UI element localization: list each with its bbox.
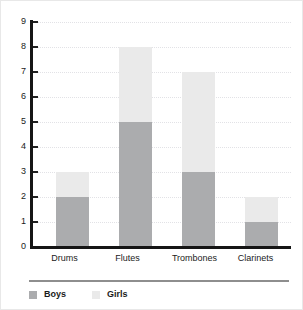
y-tick-mark-1 [33,221,38,223]
x-tick-label-clarinets: Clarinets [226,253,285,263]
gridline-8 [32,47,291,49]
stacked-bar-chart: 9 8 7 6 5 4 3 2 1 0 Drums Flutes Trombon… [0,0,303,310]
y-tick-label-1: 1 [1,217,26,226]
x-tick-label-flutes: Flutes [102,253,153,263]
y-tick-mark-6 [33,96,38,98]
bar-stack-clarinets[interactable] [245,197,278,247]
y-tick-label-6: 6 [1,92,26,101]
y-tick-mark-9 [33,21,38,23]
gridline-4 [32,147,291,149]
y-tick-label-0: 0 [1,242,26,251]
y-tick-label-3: 3 [1,167,26,176]
gridline-5 [32,122,291,124]
y-tick-label-9: 9 [1,17,26,26]
bar-segment-girls-clarinets[interactable] [245,197,278,222]
y-tick-mark-3 [33,171,38,173]
y-tick-mark-2 [33,196,38,198]
gridline-6 [32,97,291,99]
y-tick-label-8: 8 [1,42,26,51]
legend-divider [29,280,289,282]
bar-segment-girls-drums[interactable] [56,172,89,197]
x-tick-label-trombones: Trombones [161,253,228,263]
legend-swatch-boys-icon [29,291,37,299]
bar-stack-trombones[interactable] [182,72,215,247]
legend-entry-boys[interactable]: Boys [29,290,66,299]
y-axis [30,20,33,249]
bar-segment-girls-flutes[interactable] [119,47,152,122]
y-tick-mark-7 [33,71,38,73]
legend: Boys Girls [29,290,154,299]
bar-segment-boys-clarinets[interactable] [245,222,278,247]
gridline-7 [32,72,291,74]
y-tick-label-5: 5 [1,117,26,126]
bar-segment-boys-trombones[interactable] [182,172,215,247]
y-tick-mark-4 [33,146,38,148]
legend-label-boys: Boys [44,290,66,299]
x-axis [30,246,291,249]
bar-stack-drums[interactable] [56,172,89,247]
gridline-9 [32,22,291,24]
bar-stack-flutes[interactable] [119,47,152,247]
bar-segment-boys-flutes[interactable] [119,122,152,247]
y-tick-label-4: 4 [1,142,26,151]
y-tick-label-7: 7 [1,67,26,76]
bar-segment-girls-trombones[interactable] [182,72,215,172]
plot-area [32,22,291,247]
x-tick-label-drums: Drums [39,253,90,263]
y-tick-mark-5 [33,121,38,123]
y-tick-mark-8 [33,46,38,48]
legend-entry-girls[interactable]: Girls [92,290,128,299]
bar-segment-boys-drums[interactable] [56,197,89,247]
y-tick-label-2: 2 [1,192,26,201]
legend-swatch-girls-icon [92,291,100,299]
legend-label-girls: Girls [107,290,128,299]
